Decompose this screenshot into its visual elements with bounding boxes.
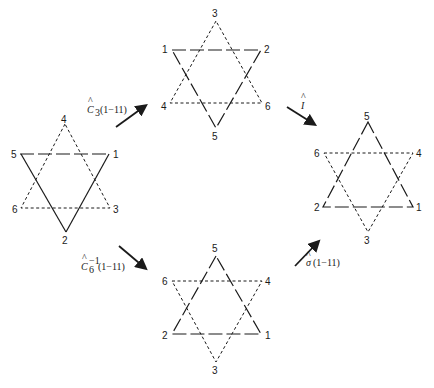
- dashed-triangle: [324, 153, 413, 232]
- vertex-label-top: 5: [212, 243, 218, 254]
- star-initial: 4 5 1 6 3 2: [11, 114, 119, 246]
- vertex-label-lower-left: 2: [162, 330, 168, 341]
- vertex-label-upper-left: 5: [11, 149, 17, 160]
- vertex-label-upper-right: 2: [264, 44, 270, 55]
- vertex-label-upper-right: 4: [265, 276, 271, 287]
- vertex-label-bottom: 5: [212, 131, 218, 142]
- symmetry-diagram: 4 5 1 6 3 2 3 1 2 4 6 5 5 6 4 2 1 3 5: [0, 0, 434, 388]
- star-after-inversion: 5 6 4 2 1 3: [314, 111, 422, 246]
- vertex-label-upper-right: 4: [416, 148, 422, 159]
- vertex-label-bottom: 3: [364, 235, 370, 246]
- vertex-label-top: 4: [61, 114, 67, 125]
- vertex-label-lower-left: 6: [12, 204, 18, 215]
- dashed-triangle: [323, 122, 413, 207]
- dashed-triangle: [170, 21, 262, 103]
- vertex-label-lower-right: 1: [265, 330, 271, 341]
- op-argument: (1−11): [100, 104, 127, 116]
- vertex-label-lower-right: 6: [265, 101, 271, 112]
- op-hat: ^: [306, 249, 311, 260]
- star-after-c3: 3 1 2 4 6 5: [161, 8, 271, 142]
- op-argument: (1−11): [98, 261, 125, 273]
- vertex-label-bottom: 2: [62, 235, 68, 246]
- vertex-label-top: 3: [212, 8, 218, 19]
- vertex-label-upper-left: 6: [162, 276, 168, 287]
- operation-label-c6-inverse: C ^ 6 −1 (1−11): [81, 252, 125, 275]
- dashed-triangle: [172, 50, 261, 128]
- op-hat: ^: [301, 91, 306, 102]
- op-argument: (1−11): [313, 257, 340, 269]
- operation-label-sigma: σ ^ (1−11): [306, 249, 340, 269]
- vertex-label-upper-left: 1: [162, 44, 168, 55]
- op-hat: ^: [82, 252, 87, 263]
- vertex-label-lower-left: 2: [314, 202, 320, 213]
- op-hat: ^: [88, 95, 93, 106]
- vertex-label-lower-right: 1: [416, 202, 422, 213]
- dashed-triangle: [21, 124, 110, 208]
- vertex-label-lower-right: 3: [113, 204, 119, 215]
- operation-label-c3: C ^ 3 (1−11): [87, 95, 127, 118]
- vertex-label-upper-left: 6: [314, 148, 320, 159]
- dashed-triangle: [172, 256, 261, 334]
- operation-label-inversion: I ^: [300, 91, 306, 111]
- vertex-label-top: 5: [364, 111, 370, 122]
- dashed-triangle: [172, 281, 262, 362]
- vertex-label-upper-right: 1: [113, 149, 119, 160]
- vertex-label-bottom: 3: [212, 365, 218, 376]
- star-after-c6-inverse: 5 6 4 2 1 3: [162, 243, 271, 376]
- vertex-label-lower-left: 4: [161, 101, 167, 112]
